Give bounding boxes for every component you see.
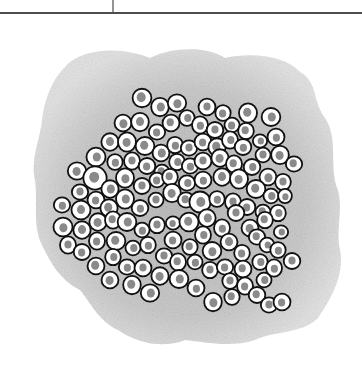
- cell: [268, 129, 285, 146]
- cell-nucleus: [279, 229, 285, 236]
- cell: [256, 273, 271, 288]
- cell: [213, 168, 230, 186]
- cell: [235, 261, 252, 278]
- cell: [234, 245, 250, 261]
- cell-nucleus: [111, 236, 119, 245]
- cell-nucleus: [241, 282, 248, 290]
- cell-nucleus: [235, 175, 243, 184]
- cell-nucleus: [225, 237, 233, 246]
- cell: [198, 209, 215, 227]
- cell: [115, 115, 132, 132]
- cell-nucleus: [203, 103, 210, 111]
- cell-nucleus: [196, 197, 205, 207]
- cell-nucleus: [216, 154, 224, 163]
- cell-nucleus: [106, 137, 114, 146]
- cell: [149, 217, 165, 233]
- cell: [209, 191, 224, 207]
- cell-nucleus: [249, 163, 256, 171]
- cell-nucleus: [261, 276, 268, 284]
- cell: [133, 89, 152, 108]
- cell-nucleus: [259, 151, 266, 159]
- cell-nucleus: [122, 195, 130, 204]
- cell-nucleus: [153, 221, 160, 229]
- cell: [203, 242, 222, 260]
- cell-nucleus: [124, 218, 132, 227]
- top-rule: [0, 0, 362, 13]
- cell-nucleus: [197, 122, 204, 130]
- cell: [166, 216, 180, 229]
- cell-nucleus: [168, 189, 176, 198]
- cell: [170, 253, 186, 270]
- cell-nucleus: [240, 144, 247, 152]
- cell-nucleus: [238, 249, 245, 257]
- cell-nucleus: [73, 167, 81, 176]
- cell-nucleus: [137, 205, 144, 213]
- cell: [275, 174, 291, 190]
- cell-nucleus: [174, 158, 181, 166]
- cell-nucleus: [185, 144, 192, 152]
- cell-nucleus: [221, 263, 228, 271]
- cell-nucleus: [186, 242, 193, 250]
- cell: [139, 158, 156, 174]
- cell-nucleus: [107, 185, 115, 194]
- cell-nucleus: [242, 126, 249, 134]
- cell: [135, 260, 152, 277]
- cell: [170, 270, 189, 288]
- cell-nucleus: [140, 141, 148, 150]
- cell: [204, 293, 222, 311]
- cell-nucleus: [143, 162, 150, 170]
- cell: [202, 262, 218, 278]
- cell: [235, 139, 252, 155]
- cell: [89, 232, 105, 249]
- cell-nucleus: [199, 138, 206, 146]
- cell: [257, 212, 273, 228]
- cell: [238, 123, 254, 139]
- cell-nucleus: [145, 242, 152, 250]
- cell: [71, 201, 90, 220]
- illustration-frame: [0, 0, 362, 368]
- cell-nucleus: [76, 188, 83, 196]
- cell: [263, 189, 278, 204]
- cell: [72, 184, 88, 199]
- cell-nucleus: [173, 99, 181, 108]
- cell-nucleus: [268, 192, 275, 200]
- cell: [195, 226, 211, 243]
- cell-nucleus: [182, 195, 189, 203]
- cell-nucleus: [112, 159, 119, 167]
- cell-nucleus: [153, 176, 160, 184]
- cell-nucleus: [199, 157, 206, 165]
- cell-nucleus: [121, 174, 129, 183]
- cell-nucleus: [184, 114, 191, 122]
- cell-nucleus: [192, 259, 199, 267]
- cell-nucleus: [184, 217, 192, 226]
- cell-nucleus: [228, 121, 235, 129]
- cell: [262, 108, 281, 126]
- cell-nucleus: [110, 253, 117, 261]
- cell-nucleus: [251, 184, 259, 193]
- cell: [182, 239, 197, 255]
- cell-nucleus: [94, 218, 102, 227]
- cell-nucleus: [147, 289, 155, 298]
- cell-nucleus: [275, 247, 282, 255]
- cell-nucleus: [253, 290, 260, 298]
- cell-nucleus: [226, 277, 233, 285]
- cell-nucleus: [169, 220, 175, 227]
- cell: [278, 189, 292, 203]
- cell-nucleus: [230, 159, 237, 167]
- cell-cluster-illustration: [0, 0, 362, 368]
- cell: [105, 249, 121, 265]
- cell-nucleus: [261, 215, 268, 223]
- cell-nucleus: [184, 179, 191, 187]
- cell-nucleus: [127, 280, 135, 289]
- cell: [116, 168, 134, 187]
- cell: [274, 225, 288, 238]
- cell: [217, 259, 233, 274]
- cell-nucleus: [78, 248, 85, 256]
- cell: [74, 244, 91, 260]
- cell-nucleus: [64, 241, 71, 249]
- cell: [270, 242, 285, 258]
- cell-nucleus: [187, 163, 194, 171]
- cell: [228, 205, 245, 221]
- cell-nucleus: [276, 151, 284, 160]
- cell-nucleus: [157, 103, 165, 112]
